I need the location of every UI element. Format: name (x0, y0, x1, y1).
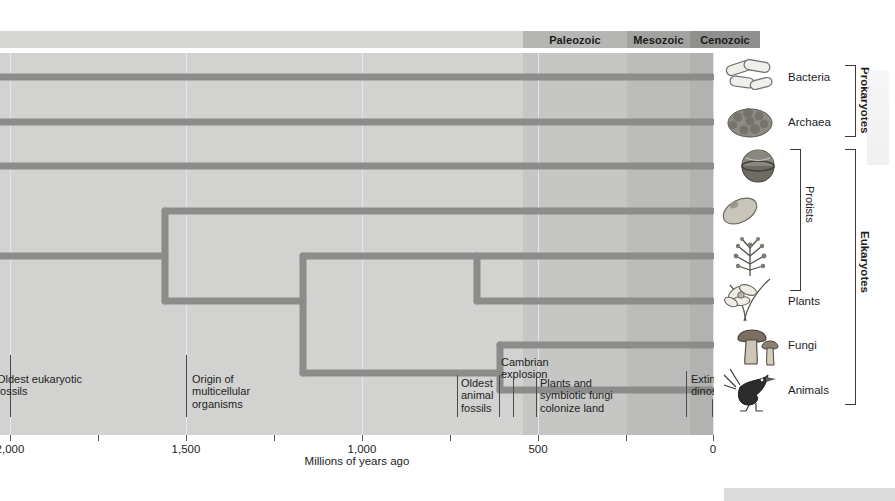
time-axis: 2,000 1,500 1,000 500 0 (0, 435, 760, 449)
marker-first-humans (712, 399, 713, 417)
annotation-plants-fungi-colonize-land: Plants and symbiotic fungi colonize land (540, 377, 613, 414)
bracket-eukaryotes (845, 149, 856, 405)
mushroom-icon (732, 321, 792, 361)
era-bar-underline (0, 48, 714, 52)
axis-label-1000: 1,000 (348, 443, 377, 455)
era-cenozoic-label: Cenozoic (700, 34, 750, 46)
diatom-icon (732, 146, 792, 186)
taxon-label-animals: Animals (788, 384, 829, 396)
amoeba-icon (712, 191, 772, 231)
annotation-oldest-eukaryotic-fossils: Oldest eukaryotic fossils (0, 373, 82, 398)
axis-title: Millions of years ago (0, 455, 714, 467)
era-paleozoic-label: Paleozoic (549, 34, 601, 46)
flower-icon (714, 275, 774, 315)
green-algae-icon (720, 234, 780, 274)
group-label-protists: Protists (804, 186, 816, 223)
marker-cambrian-explosion-start (499, 375, 500, 417)
taxon-label-fungi: Fungi (788, 339, 817, 351)
taxon-label-plants: Plants (788, 295, 820, 307)
page-bottom-strip (724, 488, 895, 501)
marker-oldest-animal-fossils (457, 375, 458, 417)
axis-label-500: 500 (528, 443, 547, 455)
axis-tick-minor (450, 435, 451, 441)
bracket-protists (790, 149, 801, 291)
figure-root: Paleozoic Mesozoic Cenozoic (0, 0, 895, 501)
era-paleozoic: Paleozoic (523, 31, 627, 48)
geologic-era-bar: Paleozoic Mesozoic Cenozoic (0, 31, 760, 48)
era-cenozoic: Cenozoic (690, 31, 760, 48)
axis-tick-minor (626, 435, 627, 441)
group-label-eukaryotes: Eukaryotes (859, 231, 871, 293)
axis-tick-minor (98, 435, 99, 441)
bird-icon (716, 365, 776, 405)
axis-tick-major (362, 435, 363, 441)
taxon-label-archaea: Archaea (788, 116, 831, 128)
marker-origin-multicellular (186, 355, 187, 417)
axis-label-0: 0 (710, 443, 716, 455)
axis-tick-minor (274, 435, 275, 441)
bacteria-rods-icon (720, 57, 780, 97)
bracket-prokaryotes (845, 65, 856, 137)
axis-label-2000: 2,000 (0, 443, 24, 455)
era-mesozoic: Mesozoic (627, 31, 690, 48)
axis-tick-major (186, 435, 187, 441)
era-precambrian (0, 31, 523, 48)
axis-tick-major (10, 435, 11, 441)
era-mesozoic-label: Mesozoic (633, 34, 683, 46)
marker-cambrian-explosion-end (513, 375, 514, 417)
axis-tick-major (713, 435, 714, 441)
timeline-annotations: Oldest eukaryotic fossils Origin of mult… (0, 355, 760, 435)
marker-extinction-of-dinosaurs (686, 371, 687, 417)
archaea-clump-icon (720, 102, 780, 142)
page-edge-artifact (867, 70, 889, 165)
taxon-label-bacteria: Bacteria (788, 71, 830, 83)
annotation-oldest-animal-fossils: Oldest animal fossils (461, 377, 493, 414)
marker-plants-fungi-colonize-land (536, 375, 537, 417)
annotation-origin-multicellular: Origin of multicellular organisms (192, 373, 250, 410)
axis-tick-major (538, 435, 539, 441)
axis-label-1500: 1,500 (172, 443, 201, 455)
